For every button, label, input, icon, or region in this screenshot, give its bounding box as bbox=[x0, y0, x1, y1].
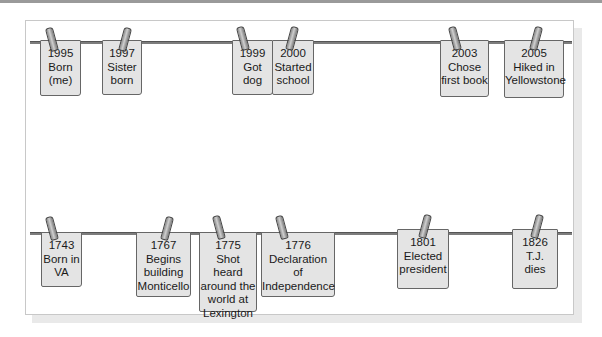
card-event: Sister born bbox=[103, 61, 141, 88]
timeline-card-1776: 1776 Declaration of Independence bbox=[261, 232, 335, 297]
card-event: Begins building Monticello bbox=[137, 253, 190, 294]
timeline-card-1775: 1775 Shot heard around the world at Lexi… bbox=[199, 232, 257, 312]
timeline-card-1999: 1999 Got dog bbox=[232, 40, 273, 95]
card-year: 1995 bbox=[41, 47, 80, 61]
timeline-card-1743: 1743 Born in VA bbox=[41, 232, 82, 287]
card-year: 1775 bbox=[200, 239, 256, 253]
card-year: 1999 bbox=[233, 47, 272, 61]
timeline-card-1995: 1995 Born (me) bbox=[40, 40, 81, 96]
card-event: Shot heard around the world at Lexington bbox=[200, 253, 256, 321]
card-event: Declaration of Independence bbox=[262, 253, 334, 294]
card-year: 1776 bbox=[262, 239, 334, 253]
card-event: Elected president bbox=[398, 250, 448, 277]
card-event: Got dog bbox=[233, 61, 272, 88]
card-event: Born in VA bbox=[42, 253, 81, 280]
timeline-card-1767: 1767 Begins building Monticello bbox=[136, 232, 191, 297]
card-year: 1743 bbox=[42, 239, 81, 253]
top-rule bbox=[0, 0, 602, 3]
card-event: Hiked in Yellowstone bbox=[505, 61, 563, 88]
card-event: Chose first book bbox=[441, 61, 488, 88]
card-event: Started school bbox=[273, 61, 313, 88]
timeline-card-2003: 2003 Chose first book bbox=[440, 40, 489, 97]
card-year: 2003 bbox=[441, 47, 488, 61]
card-year: 1767 bbox=[137, 239, 190, 253]
card-event: T.J. dies bbox=[513, 250, 557, 277]
card-event: Born (me) bbox=[41, 61, 80, 88]
